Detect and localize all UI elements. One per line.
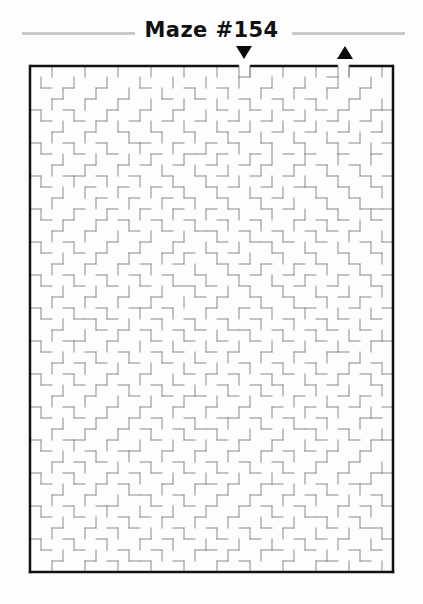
down-triangle-icon <box>236 46 252 59</box>
page-title: Maze #154 <box>0 17 423 43</box>
up-triangle-icon <box>337 46 353 59</box>
maze-figure <box>28 64 401 578</box>
maze-wall-group <box>30 66 393 572</box>
page-header: Maze #154 <box>0 0 423 50</box>
maze-canvas <box>28 64 401 578</box>
